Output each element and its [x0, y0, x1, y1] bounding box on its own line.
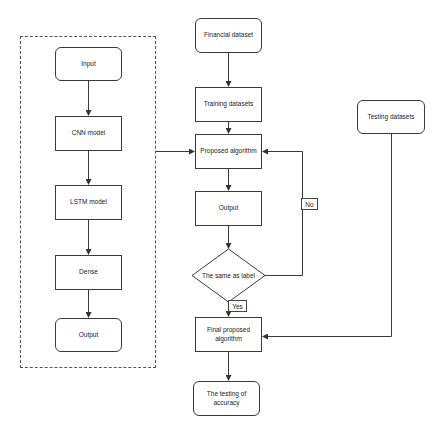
node-training-label: Training datasets — [204, 100, 254, 108]
node-testing-datasets: Testing datasets — [357, 100, 425, 134]
edge-label-no: No — [301, 198, 318, 210]
edge-label-yes: Yes — [228, 300, 247, 312]
node-testing-label: Testing datasets — [368, 113, 415, 121]
node-lstm-label: LSTM model — [70, 198, 107, 206]
node-testing-of-accuracy: The testing of accuracy — [193, 381, 260, 416]
node-dense: Dense — [55, 255, 122, 290]
node-proposed-label: Proposed algorithm — [200, 147, 256, 155]
node-accuracy-label: The testing of accuracy — [196, 390, 257, 406]
node-final-label: Final proposed algorithm — [198, 326, 259, 342]
decision-label: The same as label — [196, 268, 261, 283]
node-cnn-model: CNN model — [55, 116, 122, 151]
node-proposed-algorithm: Proposed algorithm — [195, 134, 262, 169]
node-financial-dataset: Financial dataset — [195, 18, 262, 53]
node-output: Output — [195, 191, 262, 226]
node-training-datasets: Training datasets — [195, 87, 262, 122]
node-input: Input — [55, 47, 122, 81]
edge-decision-proposed-no — [263, 152, 303, 276]
node-output-label: Output — [219, 204, 239, 212]
node-cnn-label: CNN model — [72, 129, 106, 137]
node-dense-label: Dense — [79, 268, 98, 276]
node-final-proposed-algorithm: Final proposed algorithm — [195, 317, 262, 352]
node-lstm-model: LSTM model — [55, 185, 122, 220]
edge-testing-final — [263, 134, 392, 337]
node-model-output-label: Output — [79, 331, 99, 339]
node-model-output: Output — [55, 318, 122, 352]
node-financial-label: Financial dataset — [204, 31, 253, 39]
node-input-label: Input — [81, 60, 95, 68]
